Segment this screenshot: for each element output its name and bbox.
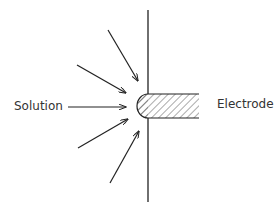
- solution-label: Solution: [14, 99, 63, 113]
- arrow-top: [108, 30, 138, 81]
- arrow-lower: [78, 119, 128, 148]
- electrode-label: Electrode: [217, 97, 274, 111]
- arrow-upper: [77, 65, 126, 93]
- diffusion-arrows: [68, 30, 139, 183]
- electrode-body: [137, 94, 199, 118]
- arrow-bottom: [110, 131, 139, 183]
